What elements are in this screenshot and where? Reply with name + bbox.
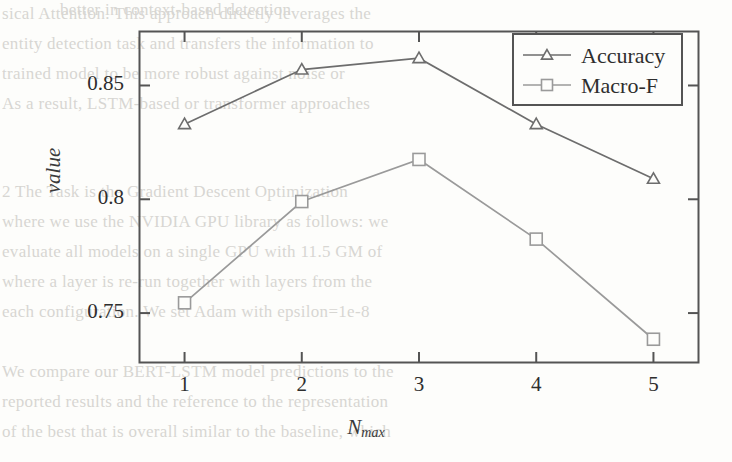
- series-line: [185, 159, 654, 339]
- square-icon: [542, 80, 553, 91]
- legend-label[interactable]: Macro-F: [581, 73, 658, 98]
- triangle-icon: [647, 173, 659, 184]
- square-icon: [179, 297, 191, 309]
- square-icon: [530, 233, 542, 245]
- chart-legend: AccuracyMacro-F: [513, 34, 682, 105]
- plot-area: AccuracyMacro-F: [0, 0, 732, 462]
- square-icon: [647, 333, 659, 345]
- legend-label[interactable]: Accuracy: [581, 43, 665, 68]
- y-tick-label: 0.85: [44, 71, 124, 96]
- line-chart-figure: value Nmax AccuracyMacro-F 0.750.80.8512…: [0, 0, 732, 462]
- y-tick-label: 0.8: [44, 185, 124, 210]
- triangle-icon: [413, 52, 425, 63]
- x-tick-label: 4: [516, 372, 556, 397]
- x-tick-label: 2: [282, 372, 322, 397]
- triangle-icon: [179, 118, 191, 128]
- triangle-icon: [530, 118, 542, 128]
- square-icon: [296, 196, 308, 208]
- x-tick-label: 1: [165, 372, 205, 397]
- y-tick-label: 0.75: [44, 299, 124, 324]
- y-axis-ticks: [140, 85, 698, 313]
- square-icon: [413, 153, 425, 165]
- x-tick-label: 5: [633, 372, 673, 397]
- x-tick-label: 3: [399, 372, 439, 397]
- series-macro-f: [179, 153, 660, 345]
